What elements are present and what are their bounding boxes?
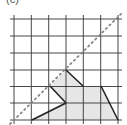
reflection-grid-diagram <box>0 0 127 125</box>
